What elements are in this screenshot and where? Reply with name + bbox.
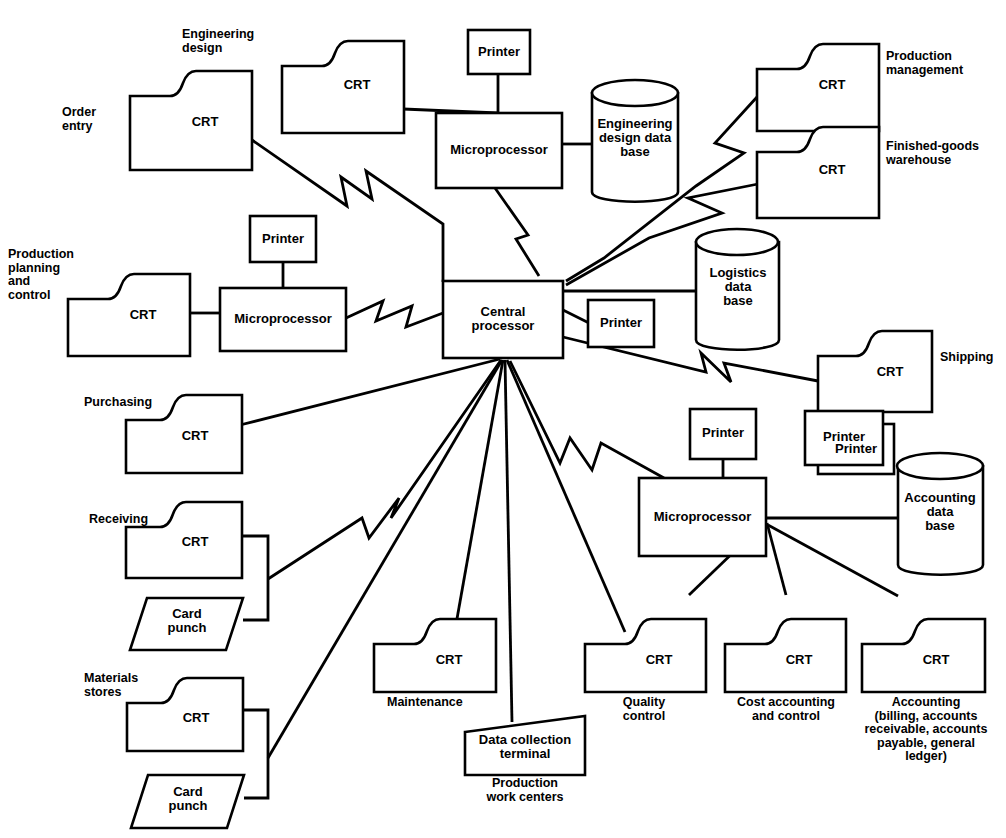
crt-accounting-text: CRT xyxy=(906,653,966,667)
printer-central-text: Printer xyxy=(589,316,653,330)
label-maintenance: Maintenance xyxy=(387,696,485,710)
link-micro-engineering-to-central xyxy=(495,188,539,276)
database-accounting-text: Accounting data base xyxy=(900,491,980,533)
label-accounting: Accounting (billing, accounts receivable… xyxy=(856,696,996,764)
microprocessor-engineering-text: Microprocessor xyxy=(437,143,561,157)
crt-order-entry-text: CRT xyxy=(175,115,235,129)
link-micro-planning-to-central xyxy=(346,301,443,327)
crt-engineering-design-text: CRT xyxy=(327,78,387,92)
crt-shipping-text: CRT xyxy=(860,365,920,379)
printer-accounting-right-text: Printer xyxy=(806,430,882,444)
link-receiving-to-central xyxy=(268,360,501,579)
crt-materials-stores-text: CRT xyxy=(166,711,226,725)
label-receiving: Receiving xyxy=(89,513,165,527)
label-finished-goods-warehouse: Finished-goods warehouse xyxy=(886,140,1004,167)
microprocessor-accounting-text: Microprocessor xyxy=(640,510,765,524)
label-production-work-centers: Production work centers xyxy=(455,777,595,804)
link-quality-control-to-central xyxy=(507,360,625,632)
crt-production-planning-text: CRT xyxy=(113,308,173,322)
card-punch-materials-text: Card punch xyxy=(157,785,219,813)
link-materials-bracket xyxy=(243,710,268,798)
central-processor-text: Central processor xyxy=(444,305,562,333)
label-production-management: Production management xyxy=(886,50,1002,77)
printer-shipping-text: Printer xyxy=(819,442,893,456)
printer-engineering-text: Printer xyxy=(469,45,529,59)
printer-accounting-top-text: Printer xyxy=(691,426,755,440)
crt-quality-control-text: CRT xyxy=(629,653,689,667)
database-logistics-text: Logistics data base xyxy=(698,266,778,308)
label-cost-accounting-and-control: Cost accounting and control xyxy=(721,696,851,723)
label-order-entry: Order entry xyxy=(62,106,128,133)
microprocessor-planning-text: Microprocessor xyxy=(221,312,345,326)
label-quality-control: Quality control xyxy=(598,696,690,723)
link-receiving-bracket xyxy=(242,536,268,620)
label-production-planning-and-control: Production planning and control xyxy=(8,248,92,302)
label-shipping: Shipping xyxy=(940,351,1004,365)
figure-caption xyxy=(0,826,1006,838)
crt-cost-accounting-text: CRT xyxy=(769,653,829,667)
crt-finished-goods-text: CRT xyxy=(802,163,862,177)
label-engineering-design: Engineering design xyxy=(182,28,280,55)
card-punch-receiving-text: Card punch xyxy=(156,607,218,635)
link-micro-accounting-to-accounting xyxy=(768,525,898,596)
data-collection-terminal-text: Data collection terminal xyxy=(468,733,582,761)
link-data-collection-to-central xyxy=(505,360,512,722)
printer-planning-text: Printer xyxy=(251,232,315,246)
label-materials-stores: Materials stores xyxy=(84,672,162,699)
crt-production-management-text: CRT xyxy=(802,78,862,92)
label-purchasing: Purchasing xyxy=(84,396,164,410)
database-engineering-design-text: Engineering design data base xyxy=(593,117,677,159)
crt-maintenance-text: CRT xyxy=(419,653,479,667)
crt-receiving-text: CRT xyxy=(165,535,225,549)
crt-purchasing-text: CRT xyxy=(165,429,225,443)
diagram-canvas: CRT CRT Printer Microprocessor Engineeri… xyxy=(0,0,1006,838)
